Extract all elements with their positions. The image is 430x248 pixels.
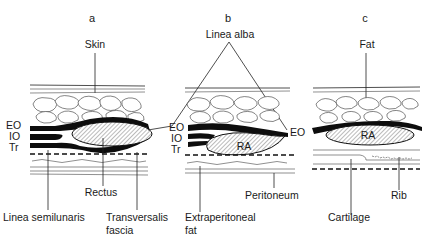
label-tr-a: Tr bbox=[9, 141, 19, 153]
skin-layer-c bbox=[313, 87, 420, 92]
panel-a: a Skin EO IO T bbox=[3, 12, 168, 236]
label-eo-b-right: EO bbox=[290, 126, 305, 138]
label-fat-b: fat bbox=[185, 224, 197, 236]
cartilage-rib-layer bbox=[313, 150, 420, 164]
panel-letter-b: b bbox=[225, 12, 231, 24]
fat-layer-c bbox=[316, 97, 418, 124]
label-transversalis: Transversalis bbox=[106, 211, 168, 223]
label-rectus: Rectus bbox=[85, 186, 118, 198]
label-tr-b: Tr bbox=[171, 143, 181, 155]
label-ra-b: RA bbox=[237, 140, 252, 152]
label-extraperitoneal: Extraperitoneal bbox=[185, 211, 256, 223]
label-peritoneum: Peritoneum bbox=[245, 189, 299, 201]
abdominal-wall-diagram: a Skin EO IO T bbox=[0, 0, 430, 248]
panel-b: b Linea alba RA EO IO Tr EO bbox=[148, 12, 305, 236]
label-ra-c: RA bbox=[361, 129, 376, 141]
label-skin: Skin bbox=[85, 38, 106, 50]
skin-layer-b bbox=[185, 88, 290, 92]
deep-layers-b bbox=[185, 162, 295, 174]
label-rib: Rib bbox=[391, 189, 407, 201]
rectus-muscle-a bbox=[72, 122, 152, 146]
skin-layer bbox=[30, 85, 145, 93]
panel-c: c Fat RA Rib bbox=[312, 12, 422, 223]
panel-letter-a: a bbox=[89, 12, 96, 24]
label-linea-alba: Linea alba bbox=[206, 28, 255, 40]
label-fat-c: Fat bbox=[359, 38, 374, 50]
label-linea-semilunaris: Linea semilunaris bbox=[3, 211, 85, 223]
panel-letter-c: c bbox=[362, 12, 368, 24]
label-fascia: fascia bbox=[106, 224, 134, 236]
fat-layer-b bbox=[187, 96, 279, 124]
label-cartilage: Cartilage bbox=[328, 211, 370, 223]
